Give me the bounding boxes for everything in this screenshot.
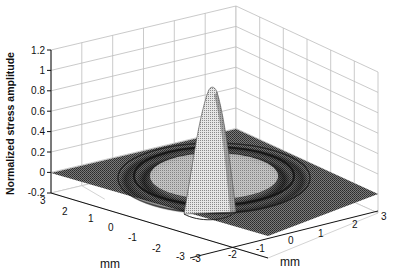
x-axis-label: mm: [280, 255, 300, 269]
z-axis-label: Normalized stress amplitude: [4, 52, 16, 195]
z-axis: 1.2 1 0.8 0.6 0.4 0.2 0 -0.2 Normalized …: [4, 45, 51, 198]
z-tick: 0.6: [31, 106, 45, 117]
y-tick: -3: [176, 251, 185, 262]
z-tick: 1: [39, 65, 45, 76]
surface-plot: 1.2 1 0.8 0.6 0.4 0.2 0 -0.2 Normalized …: [0, 0, 393, 275]
x-tick: 1: [318, 228, 324, 239]
x-tick: 0: [288, 235, 294, 246]
z-tick: 0.8: [31, 85, 45, 96]
z-tick: 0.4: [31, 126, 45, 137]
x-tick: -2: [228, 249, 237, 260]
y-tick: 0: [108, 222, 114, 233]
y-tick: 1: [88, 213, 94, 224]
z-tick: 1.2: [31, 45, 45, 56]
y-tick: -1: [128, 232, 137, 243]
x-tick: -1: [256, 243, 265, 254]
y-tick: 3: [40, 195, 46, 206]
x-tick: 2: [352, 219, 358, 230]
y-axis-label: mm: [100, 257, 120, 271]
z-tick: 0.2: [31, 147, 45, 158]
z-tick: 0: [39, 167, 45, 178]
x-tick: -3: [192, 253, 201, 264]
y-tick: 2: [62, 206, 68, 217]
x-tick: 3: [381, 211, 387, 222]
y-tick: -2: [152, 243, 161, 254]
